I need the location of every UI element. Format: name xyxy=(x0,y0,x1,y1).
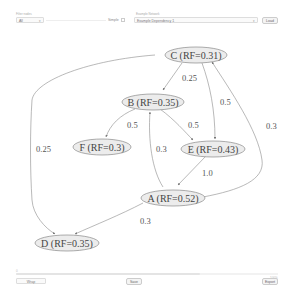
edge-label-c-d: 0.25 xyxy=(36,144,51,154)
edge-label-a-c: 0.3 xyxy=(266,121,277,131)
node-f[interactable]: F (RF=0.3) xyxy=(73,139,131,155)
edge-label-c-e: 0.5 xyxy=(220,97,231,107)
wrap-select[interactable]: Wrap xyxy=(16,278,46,284)
bottom-bar: 0 100% Wrap Save Export xyxy=(0,268,293,302)
node-label-f: F (RF=0.3) xyxy=(79,142,124,154)
node-d[interactable]: D (RF=0.35) xyxy=(35,235,99,251)
edge-label-a-b: 0.3 xyxy=(156,144,167,154)
edge-a-d[interactable] xyxy=(75,203,143,234)
edge-c-b[interactable] xyxy=(163,63,182,90)
network-select-value: Example Dependency 1 xyxy=(137,19,174,23)
node-a[interactable]: A (RF=0.52) xyxy=(141,190,205,206)
chevron-down-icon: ▾ xyxy=(253,18,255,24)
edge-label-c-b: 0.25 xyxy=(182,73,197,83)
edge-label-b-e: 0.5 xyxy=(188,120,199,130)
node-label-a: A (RF=0.52) xyxy=(147,193,198,205)
filter-label: Filter nodes xyxy=(16,12,32,16)
edge-label-a-d: 0.3 xyxy=(140,216,151,226)
simple-label: Simple xyxy=(108,18,119,22)
node-label-b: B (RF=0.35) xyxy=(127,97,178,109)
node-label-d: D (RF=0.35) xyxy=(41,238,93,250)
node-e[interactable]: E (RF=0.43) xyxy=(181,141,245,157)
edge-c-e[interactable] xyxy=(202,63,215,139)
export-button[interactable]: Export xyxy=(262,278,278,285)
network-select[interactable]: Example Dependency 1 ▾ xyxy=(134,17,258,23)
filter-select-value: All xyxy=(19,19,23,23)
dependency-graph: 0.25 0.5 0.25 0.5 0.5 0.3 1.0 0.3 0.3 C … xyxy=(14,34,280,266)
progress-bar xyxy=(16,273,200,275)
network-label: Example Network xyxy=(136,12,160,16)
node-c[interactable]: C (RF=0.31) xyxy=(165,47,227,63)
node-label-c: C (RF=0.31) xyxy=(170,50,221,62)
status-left: 0 xyxy=(16,269,18,273)
load-button[interactable]: Load xyxy=(262,17,278,24)
wrap-select-value: Wrap xyxy=(27,280,35,284)
node-b[interactable]: B (RF=0.35) xyxy=(122,94,184,110)
node-label-e: E (RF=0.43) xyxy=(188,144,239,156)
toolbar: Filter nodes All ▾ Simple Example Networ… xyxy=(0,0,293,34)
edge-label-e-a: 1.0 xyxy=(202,168,213,178)
chevron-down-icon: ▾ xyxy=(39,18,41,24)
save-button[interactable]: Save xyxy=(126,278,142,285)
filter-select[interactable]: All ▾ xyxy=(16,17,44,23)
toolbar-divider xyxy=(46,20,106,21)
simple-checkbox[interactable] xyxy=(121,18,125,22)
edge-label-b-f: 0.5 xyxy=(127,120,138,130)
graph-canvas[interactable]: 0.25 0.5 0.25 0.5 0.5 0.3 1.0 0.3 0.3 C … xyxy=(14,34,280,266)
